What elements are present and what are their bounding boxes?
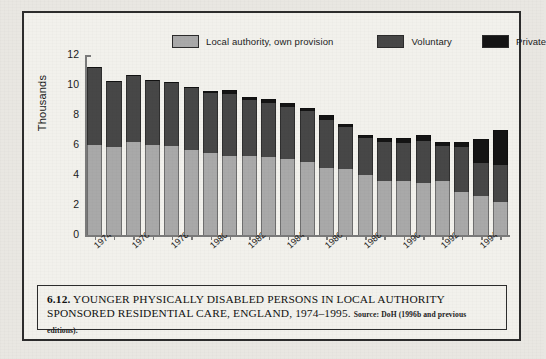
bar-1984 [280, 55, 295, 235]
bar-segment-1983-1 [261, 103, 276, 157]
bar-1980 [203, 55, 218, 235]
bar-segment-1981-1 [222, 94, 237, 156]
bar-segment-1979-2 [184, 87, 199, 89]
bar-1993 [454, 55, 469, 235]
y-tick-label: 4 [52, 168, 79, 180]
bar-segment-1991-1 [416, 141, 431, 183]
bar-segment-1984-2 [280, 103, 295, 107]
bar-segment-1995-1 [493, 165, 508, 202]
bar-segment-1993-1 [454, 147, 469, 192]
bar-segment-1981-0 [222, 156, 237, 236]
bar-segment-1981-2 [222, 90, 237, 95]
bar-1979 [184, 55, 199, 235]
y-tick-label: 2 [52, 198, 79, 210]
bar-segment-1990-1 [396, 143, 411, 181]
bar-segment-1976-0 [126, 142, 141, 235]
bar-segment-1979-1 [184, 88, 199, 150]
chart-plot-area: Local authority, own provision Voluntary… [24, 13, 523, 275]
x-tick [346, 235, 348, 240]
bar-1975 [106, 55, 121, 235]
x-tick [230, 235, 232, 240]
bar-1992 [435, 55, 450, 235]
bar-1991 [416, 55, 431, 235]
bar-segment-1987-1 [338, 127, 353, 169]
bar-1978 [164, 55, 179, 235]
y-tick-label: 8 [52, 108, 79, 120]
bar-segment-1992-2 [435, 142, 450, 146]
bar-segment-1994-0 [473, 196, 488, 235]
bar-segment-1977-1 [145, 80, 160, 145]
bar-1983 [261, 55, 276, 235]
bar-segment-1974-0 [87, 145, 102, 235]
y-axis-title: Thousands [36, 48, 48, 158]
bar-segment-1976-1 [126, 75, 141, 143]
bar-segment-1982-2 [242, 97, 257, 100]
legend-swatch-voluntary [377, 35, 404, 48]
bar-segment-1983-0 [261, 157, 276, 235]
bar-segment-1986-1 [319, 120, 334, 168]
bar-1976 [126, 55, 141, 235]
x-tick [114, 235, 116, 240]
x-tick [153, 235, 155, 240]
bar-1989 [377, 55, 392, 235]
bar-1987 [338, 55, 353, 235]
bar-segment-1993-2 [454, 142, 469, 147]
bar-segment-1994-2 [473, 139, 488, 163]
legend-label-voluntary: Voluntary [411, 36, 452, 47]
bar-segment-1991-2 [416, 135, 431, 140]
bar-segment-1978-0 [164, 146, 179, 235]
bar-segment-1991-0 [416, 183, 431, 236]
bar-1986 [319, 55, 334, 235]
bar-segment-1980-1 [203, 93, 218, 152]
x-tick [423, 235, 425, 240]
x-tick [307, 235, 309, 240]
bar-segment-1987-2 [338, 124, 353, 127]
x-tick [500, 235, 502, 240]
caption-number: 6.12. [47, 293, 71, 305]
bar-segment-1988-2 [358, 135, 373, 138]
legend-entry-local-authority: Local authority, own provision [172, 35, 333, 48]
bar-segment-1989-0 [377, 181, 392, 235]
chart-legend: Local authority, own provision Voluntary… [172, 33, 502, 49]
bar-segment-1985-1 [300, 111, 315, 162]
bar-segment-1986-2 [319, 115, 334, 120]
x-tick [384, 235, 386, 240]
bar-segment-1987-0 [338, 169, 353, 235]
bar-segment-1990-0 [396, 181, 411, 235]
bar-segment-1982-0 [242, 156, 257, 236]
bar-1977 [145, 55, 160, 235]
bar-segment-1979-0 [184, 150, 199, 236]
bar-segment-1985-0 [300, 162, 315, 236]
bar-1982 [242, 55, 257, 235]
figure-panel: Local authority, own provision Voluntary… [22, 11, 521, 341]
y-tick-label: 12 [52, 48, 79, 60]
bar-segment-1992-0 [435, 181, 450, 235]
bar-1974 [87, 55, 102, 235]
bar-segment-1989-2 [377, 138, 392, 142]
legend-swatch-private [482, 35, 509, 48]
bar-segment-1989-1 [377, 142, 392, 181]
bar-segment-1974-1 [87, 67, 102, 145]
caption-text: 6.12. YOUNGER PHYSICALLY DISABLED PERSON… [47, 292, 498, 339]
bar-segment-1977-0 [145, 145, 160, 235]
bar-segment-1982-1 [242, 100, 257, 156]
bar-segment-1992-1 [435, 146, 450, 181]
bar-segment-1975-0 [106, 147, 121, 235]
bar-segment-1988-0 [358, 175, 373, 235]
bar-1988 [358, 55, 373, 235]
bar-1994 [473, 55, 488, 235]
bar-1981 [222, 55, 237, 235]
bar-segment-1995-0 [493, 202, 508, 235]
legend-swatch-local-authority [172, 35, 199, 48]
legend-entry-private: Private [482, 35, 546, 48]
bar-segment-1995-2 [493, 130, 508, 165]
bar-group [85, 55, 510, 235]
legend-label-local-authority: Local authority, own provision [206, 36, 333, 47]
y-tick [85, 235, 91, 237]
x-tick [462, 235, 464, 240]
y-tick-label: 0 [52, 228, 79, 240]
bar-segment-1984-0 [280, 159, 295, 236]
legend-label-private: Private [516, 36, 546, 47]
bar-1985 [300, 55, 315, 235]
bar-1995 [493, 55, 508, 235]
